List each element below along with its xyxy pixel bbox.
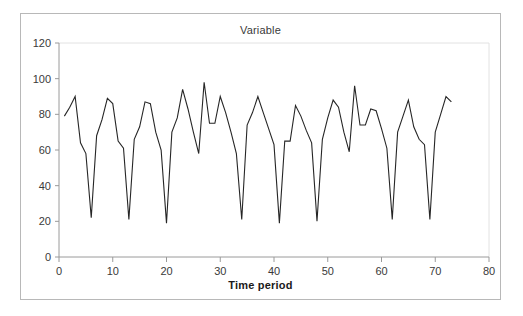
y-tick-label: 60 [39, 144, 51, 156]
x-tick-label: 0 [56, 265, 62, 277]
x-tick-label: 30 [214, 265, 226, 277]
y-tick-label: 20 [39, 215, 51, 227]
y-tick-label: 100 [33, 73, 51, 85]
y-axis: 020406080100120 [33, 37, 59, 263]
series-line [64, 82, 451, 223]
plot-area: 020406080100120 01020304050607080 [21, 14, 500, 299]
x-axis: 01020304050607080 [56, 257, 495, 277]
chart-figure: Variable 020406080100120 010203040506070… [20, 13, 501, 300]
x-tick-label: 20 [160, 265, 172, 277]
x-tick-label: 40 [268, 265, 280, 277]
y-tick-label: 120 [33, 37, 51, 49]
y-tick-label: 80 [39, 108, 51, 120]
data-series [64, 82, 451, 223]
y-tick-label: 0 [45, 251, 51, 263]
x-tick-label: 60 [375, 265, 387, 277]
x-tick-label: 80 [483, 265, 495, 277]
x-tick-label: 10 [107, 265, 119, 277]
x-tick-label: 70 [429, 265, 441, 277]
x-tick-label: 50 [322, 265, 334, 277]
y-tick-label: 40 [39, 180, 51, 192]
x-axis-title: Time period [21, 279, 500, 291]
